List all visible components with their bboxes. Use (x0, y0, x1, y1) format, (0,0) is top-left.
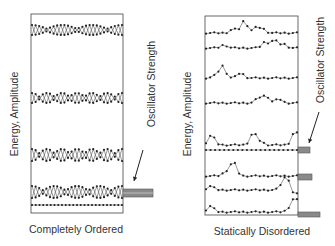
site-dot (78, 27, 80, 29)
site-dot (292, 133, 294, 135)
site-dot (99, 33, 101, 35)
site-dot (282, 149, 284, 151)
site-dot (45, 194, 47, 196)
state-level (31, 92, 123, 104)
site-dot (56, 33, 58, 35)
site-dot (78, 102, 80, 104)
site-dot (110, 158, 112, 160)
site-dot (42, 93, 44, 95)
state-level (31, 204, 123, 206)
site-dot (103, 196, 105, 198)
site-dot (31, 92, 33, 94)
site-dot (71, 26, 73, 28)
site-dot (106, 204, 108, 206)
site-dot (38, 95, 40, 97)
disordered-energy-axis-label: Energy, Amplitude (181, 68, 193, 160)
site-dot (259, 140, 261, 142)
site-dot (279, 175, 281, 177)
site-dot (214, 149, 216, 151)
site-dot (85, 194, 87, 196)
site-dot (103, 26, 105, 28)
site-dot (31, 24, 33, 26)
site-dot (60, 24, 62, 26)
site-dot (255, 133, 257, 135)
site-dot (209, 76, 211, 78)
state-level (205, 64, 298, 79)
site-dot (60, 34, 62, 36)
site-dot (110, 204, 112, 206)
site-dot (217, 47, 219, 49)
site-dot (230, 144, 232, 146)
site-dot (117, 149, 119, 151)
site-dot (107, 160, 109, 162)
site-dot (67, 151, 69, 153)
site-dot (63, 101, 65, 103)
site-dot (237, 149, 239, 151)
site-dot (259, 96, 261, 98)
site-dot (246, 77, 248, 79)
site-dot (217, 175, 219, 177)
site-dot (238, 211, 240, 213)
site-dot (226, 190, 228, 192)
site-dot (234, 143, 236, 145)
site-dot (78, 92, 80, 94)
site-dot (31, 160, 33, 162)
site-dot (85, 188, 87, 190)
site-dot (275, 76, 277, 78)
site-dot (279, 184, 281, 186)
site-dot (288, 180, 290, 182)
site-dot (42, 150, 44, 152)
site-dot (217, 211, 219, 213)
site-dot (263, 95, 265, 97)
localized-wave-line (206, 66, 297, 79)
site-dot (114, 156, 116, 158)
site-dot (275, 188, 277, 190)
site-dot (81, 32, 83, 34)
site-dot (217, 189, 219, 191)
site-dot (35, 204, 37, 206)
site-dot (205, 209, 207, 211)
site-dot (246, 103, 248, 105)
site-dot (110, 93, 112, 95)
oscillator-strength-bar (298, 212, 320, 217)
site-dot (42, 193, 44, 195)
site-dot (226, 32, 228, 34)
site-dot (31, 148, 33, 150)
site-dot (89, 148, 91, 150)
site-dot (81, 150, 83, 152)
site-dot (287, 149, 289, 151)
site-dot (230, 211, 232, 213)
site-dot (288, 47, 290, 49)
site-dot (53, 99, 55, 101)
site-dot (275, 98, 277, 100)
site-dot (234, 101, 236, 103)
site-dot (246, 25, 248, 27)
site-dot (81, 186, 83, 188)
site-dot (205, 33, 207, 35)
site-dot (260, 149, 262, 151)
site-dot (85, 25, 87, 27)
site-dot (67, 33, 69, 35)
site-dot (250, 175, 252, 177)
site-dot (250, 47, 252, 49)
site-dot (81, 196, 83, 198)
site-dot (250, 134, 252, 136)
site-dot (60, 187, 62, 189)
site-dot (35, 149, 37, 151)
site-dot (221, 211, 223, 213)
site-dot (56, 197, 58, 199)
site-dot (255, 149, 257, 151)
site-dot (78, 31, 80, 33)
site-dot (217, 71, 219, 73)
site-dot (121, 204, 123, 206)
site-dot (292, 191, 294, 193)
site-dot (35, 34, 37, 36)
site-dot (65, 204, 67, 206)
site-dot (230, 76, 232, 78)
site-dot (234, 210, 236, 212)
site-dot (49, 159, 51, 161)
site-dot (53, 185, 55, 187)
state-level (205, 176, 298, 194)
site-dot (89, 92, 91, 94)
state-level (205, 149, 298, 151)
